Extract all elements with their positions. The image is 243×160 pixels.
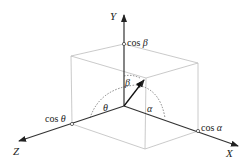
beta-angle-label: β	[124, 77, 130, 88]
unit-box	[71, 44, 198, 149]
cos-beta-label: cos β	[127, 37, 148, 48]
x-axis-label: X	[225, 147, 234, 159]
cos-theta-point	[70, 122, 73, 125]
cosine-points	[70, 42, 199, 132]
alpha-angle-label: α	[147, 103, 153, 114]
direction-cosine-diagram: Y Z X cos β cos θ cos α β θ α	[0, 0, 243, 160]
y-axis-label: Y	[110, 10, 118, 22]
cos-beta-point	[122, 42, 125, 45]
theta-angle-label: θ	[103, 102, 108, 113]
cos-theta-label: cos θ	[45, 113, 66, 124]
z-axis-label: Z	[13, 145, 20, 157]
theta-arc	[90, 85, 136, 118]
cos-alpha-label: cos α	[201, 122, 223, 133]
cos-alpha-point	[196, 129, 199, 132]
